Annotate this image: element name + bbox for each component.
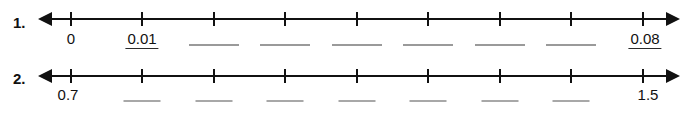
- value-slot: 1.5: [636, 86, 661, 104]
- answer-slot[interactable]: [189, 30, 239, 50]
- tick-mark: [70, 12, 72, 26]
- arrow-right-icon: [666, 12, 680, 26]
- problem-2: 2. 0.7: [0, 62, 689, 130]
- tick-mark: [213, 12, 215, 26]
- blank-answer-line: [260, 30, 310, 46]
- problem-1-number-line: [38, 9, 680, 29]
- tick-mark: [570, 69, 572, 83]
- value-slot: 0: [65, 30, 77, 48]
- problem-2-labels: 0.7 1.5: [38, 86, 680, 114]
- problem-2-number: 2.: [13, 70, 25, 87]
- problem-1: 1. 0 0.01: [0, 0, 689, 62]
- answer-slot[interactable]: [332, 30, 382, 50]
- answer-slot[interactable]: [410, 86, 447, 106]
- answer-slot[interactable]: [267, 86, 304, 106]
- blank-answer-line: [475, 30, 525, 46]
- answer-slot[interactable]: [475, 30, 525, 50]
- tick-mark: [284, 69, 286, 83]
- tick-mark: [141, 12, 143, 26]
- blank-answer-line: [189, 30, 239, 46]
- blank-answer-line: [124, 86, 161, 102]
- problem-1-number: 1.: [13, 14, 25, 31]
- blank-answer-line: [332, 30, 382, 46]
- tick-mark: [70, 69, 72, 83]
- tick-mark: [427, 69, 429, 83]
- blank-answer-line: [546, 30, 596, 46]
- answer-slot[interactable]: [546, 30, 596, 50]
- tick-mark: [356, 12, 358, 26]
- answer-slot[interactable]: [260, 30, 310, 50]
- answer-slot[interactable]: [553, 86, 590, 106]
- number-line-worksheet: 1. 0 0.01: [0, 0, 689, 130]
- answer-slot[interactable]: [482, 86, 519, 106]
- tick-mark: [213, 69, 215, 83]
- value-slot: 0.7: [56, 86, 81, 104]
- blank-answer-line: [553, 86, 590, 102]
- answer-slot[interactable]: [124, 86, 161, 106]
- blank-answer-line: [267, 86, 304, 102]
- answer-slot[interactable]: 0.01: [125, 30, 158, 49]
- problem-2-number-line: [38, 66, 680, 86]
- tick-mark: [141, 69, 143, 83]
- blank-answer-line: [339, 86, 376, 102]
- answer-slot[interactable]: 0.08: [628, 30, 661, 49]
- tick-mark: [356, 69, 358, 83]
- answer-slot[interactable]: [403, 30, 453, 50]
- tick-mark: [570, 12, 572, 26]
- blank-answer-line: [482, 86, 519, 102]
- answer-slot[interactable]: [196, 86, 233, 106]
- tick-mark: [642, 69, 644, 83]
- tick-mark: [284, 12, 286, 26]
- answer-slot[interactable]: [339, 86, 376, 106]
- blank-answer-line: [196, 86, 233, 102]
- blank-answer-line: [403, 30, 453, 46]
- tick-mark: [499, 12, 501, 26]
- tick-mark: [499, 69, 501, 83]
- tick-mark: [642, 12, 644, 26]
- tick-mark: [427, 12, 429, 26]
- problem-1-labels: 0 0.01 0.08: [38, 30, 680, 58]
- arrow-right-icon: [666, 69, 680, 83]
- blank-answer-line: [410, 86, 447, 102]
